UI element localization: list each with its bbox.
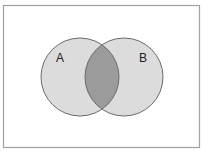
set-a-label: A xyxy=(56,51,64,65)
set-b-label: B xyxy=(139,51,147,65)
venn-diagram: A B xyxy=(0,0,204,152)
